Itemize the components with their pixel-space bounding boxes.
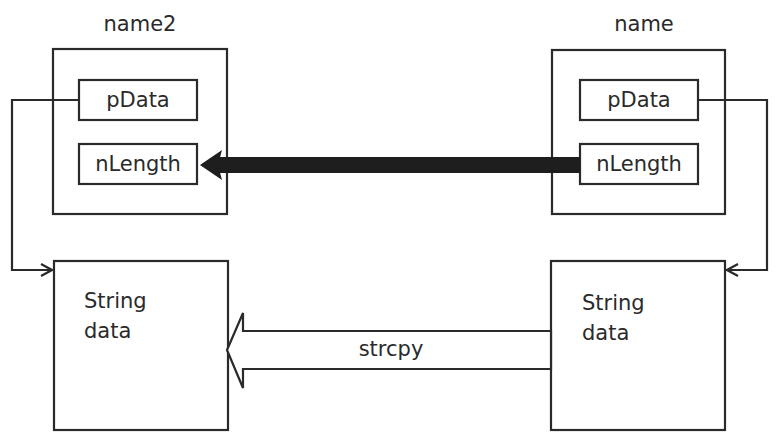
name2-object-label: name2 — [104, 14, 177, 35]
name2-pdata-label: pData — [106, 90, 169, 111]
name-buffer-line1: String — [582, 288, 645, 318]
name2-buffer-line1: String — [84, 286, 147, 316]
name-pointer-arrow — [698, 100, 767, 270]
name2-object-box — [53, 49, 227, 214]
name-nlength-label: nLength — [596, 154, 682, 175]
length-copy-arrow — [200, 150, 580, 180]
name-object-box — [552, 50, 725, 214]
name2-buffer-line2: data — [84, 316, 147, 346]
name-buffer-line2: data — [582, 318, 645, 348]
name2-buffer-text: String data — [84, 286, 147, 346]
name-object-label: name — [614, 14, 674, 35]
name-pdata-label: pData — [607, 90, 670, 111]
name2-nlength-label: nLength — [95, 154, 181, 175]
name2-pointer-arrow — [12, 100, 79, 270]
name-buffer-text: String data — [582, 288, 645, 348]
strcpy-label: strcpy — [359, 339, 424, 360]
diagram-canvas — [0, 0, 781, 439]
